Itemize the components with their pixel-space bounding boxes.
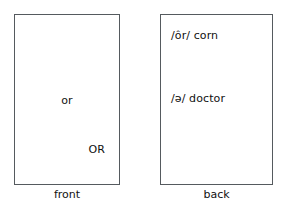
caption-front: front bbox=[14, 188, 120, 201]
back-card-line-doctor: /ə/ doctor bbox=[171, 92, 225, 105]
caption-back: back bbox=[160, 188, 273, 201]
front-card-line-lowercase: or bbox=[15, 94, 119, 107]
flashcard-figure: or OR /ôr/ corn /ə/ doctor front back bbox=[0, 0, 282, 209]
flashcard-back[interactable]: /ôr/ corn /ə/ doctor bbox=[160, 14, 273, 185]
flashcard-front[interactable]: or OR bbox=[14, 14, 120, 185]
back-card-line-corn: /ôr/ corn bbox=[171, 29, 218, 42]
front-card-line-uppercase: OR bbox=[15, 143, 105, 156]
